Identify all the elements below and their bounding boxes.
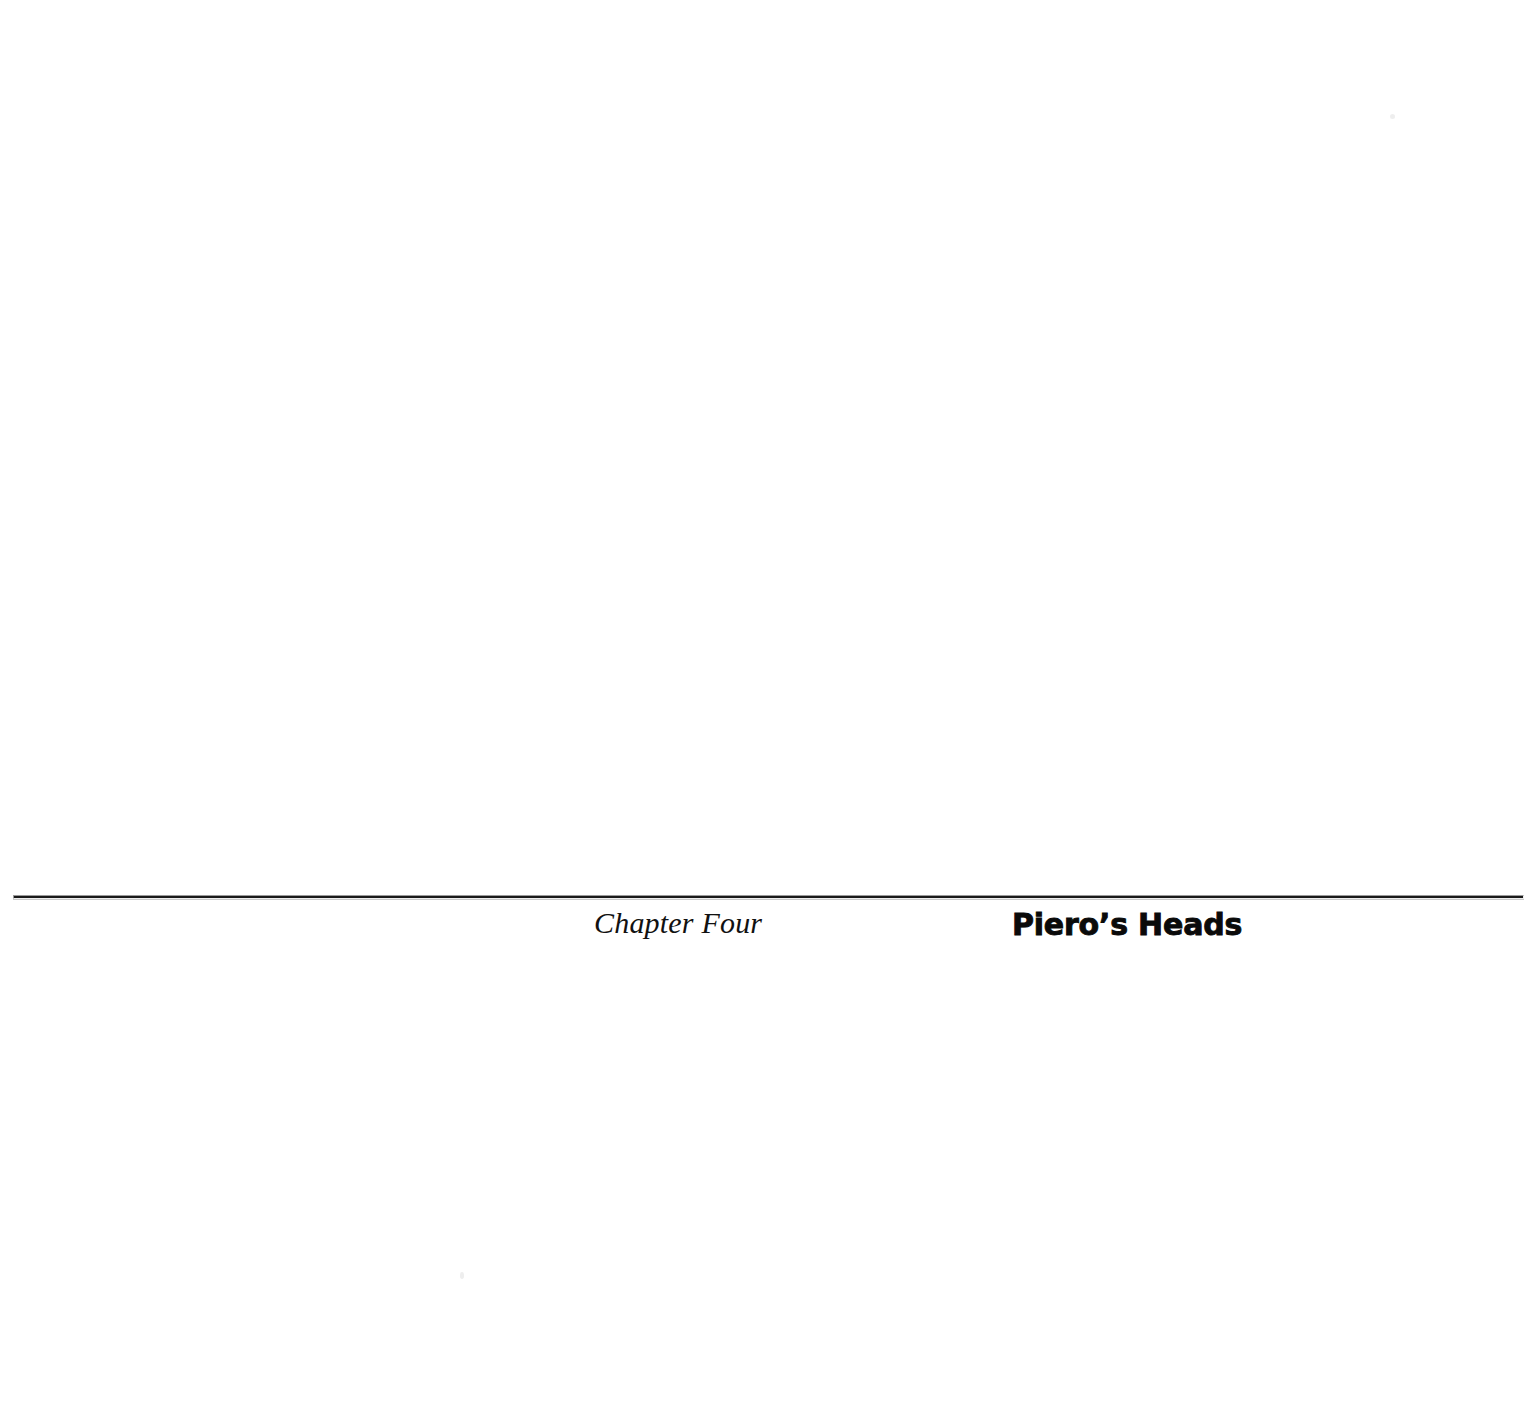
- scan-speck-icon: [1390, 114, 1395, 119]
- scanned-book-page: Chapter Four Piero’s Heads: [0, 0, 1534, 1417]
- chapter-title: Piero’s Heads: [1012, 905, 1242, 945]
- scan-speck-icon: [460, 1272, 464, 1279]
- chapter-number-label: Chapter Four: [594, 903, 762, 943]
- chapter-heading: Chapter Four Piero’s Heads: [0, 903, 1534, 959]
- chapter-divider-rule: [13, 895, 1524, 899]
